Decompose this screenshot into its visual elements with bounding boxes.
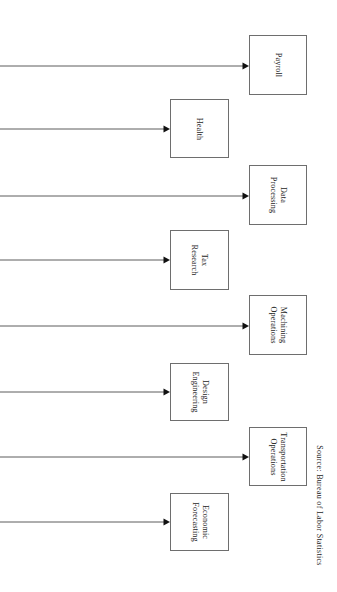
node-label-line: Economic (200, 502, 210, 541)
node-label-line: Health (195, 117, 205, 139)
source-note-text: Source: Bureau of Labor Statistics (315, 445, 324, 565)
node-box-data-processing[interactable]: DataProcessing (249, 165, 307, 225)
node-label-line: Operations (268, 307, 278, 344)
node-label-economic-forecasting: EconomicForecasting (190, 502, 210, 541)
arrow-transportation-operations (0, 454, 249, 461)
node-label-line: Forecasting (190, 502, 200, 541)
node-label-line: Data (278, 177, 288, 213)
node-box-machining-operations[interactable]: MachiningOperations (249, 295, 307, 355)
arrow-design-engineering (0, 389, 170, 396)
arrow-payroll (0, 63, 249, 70)
node-box-economic-forecasting[interactable]: EconomicForecasting (170, 493, 229, 551)
node-label-payroll: Payroll (273, 53, 283, 77)
node-label-line: Processing (268, 177, 278, 213)
node-label-line: Transportation (278, 432, 288, 481)
arrow-economic-forecasting (0, 519, 170, 526)
node-label-line: Operations (268, 432, 278, 481)
node-label-line: Payroll (273, 53, 283, 77)
arrow-tax-research (0, 257, 170, 264)
arrow-machining-operations (0, 323, 249, 330)
node-label-line: Machining (278, 307, 288, 344)
node-label-line: Engineering (190, 371, 200, 412)
node-label-data-processing: DataProcessing (268, 177, 288, 213)
node-label-tax-research: TaxResearch (190, 245, 210, 276)
arrow-data-processing (0, 193, 249, 200)
node-label-line: Tax (200, 245, 210, 276)
node-label-design-engineering: DesignEngineering (190, 371, 210, 412)
node-box-payroll[interactable]: Payroll (249, 35, 307, 95)
node-label-health: Health (195, 117, 205, 139)
node-box-health[interactable]: Health (170, 99, 229, 158)
source-note: Source: Bureau of Labor Statistics (312, 440, 326, 570)
node-label-machining-operations: MachiningOperations (268, 307, 288, 344)
node-box-tax-research[interactable]: TaxResearch (170, 230, 229, 290)
flow-diagram: PayrollHealthDataProcessingTaxResearchMa… (0, 0, 337, 592)
node-label-line: Research (190, 245, 200, 276)
arrow-health (0, 126, 170, 133)
node-label-line: Design (200, 371, 210, 412)
node-box-design-engineering[interactable]: DesignEngineering (170, 363, 229, 421)
node-box-transportation-operations[interactable]: TransportationOperations (249, 427, 307, 486)
node-label-transportation-operations: TransportationOperations (268, 432, 288, 481)
